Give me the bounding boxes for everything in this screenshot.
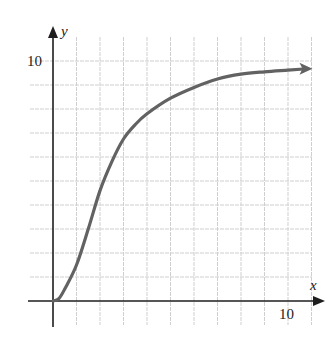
x-axis-arrow-icon xyxy=(313,296,325,306)
x-axis-label: x xyxy=(309,277,317,293)
data-curve xyxy=(53,69,304,301)
x-tick-label-10: 10 xyxy=(279,306,294,322)
chart: y x 10 10 xyxy=(0,0,334,349)
y-axis-arrow-icon xyxy=(48,26,58,38)
grid-lines xyxy=(30,37,312,325)
y-axis-label: y xyxy=(59,23,68,39)
y-tick-label-10: 10 xyxy=(27,53,42,69)
